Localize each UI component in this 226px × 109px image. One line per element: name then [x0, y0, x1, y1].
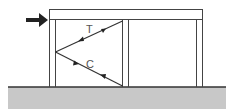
load-arrow-shaft	[26, 18, 40, 22]
compression-arrow-icon	[100, 74, 106, 79]
tension-label: T	[86, 23, 93, 35]
ground	[8, 87, 226, 109]
frame-diagram: T C	[0, 0, 226, 109]
top-beam	[50, 10, 203, 20]
compression-label: C	[86, 58, 94, 70]
load-arrow-icon	[39, 13, 48, 27]
tension-arrow-icon	[78, 37, 84, 42]
